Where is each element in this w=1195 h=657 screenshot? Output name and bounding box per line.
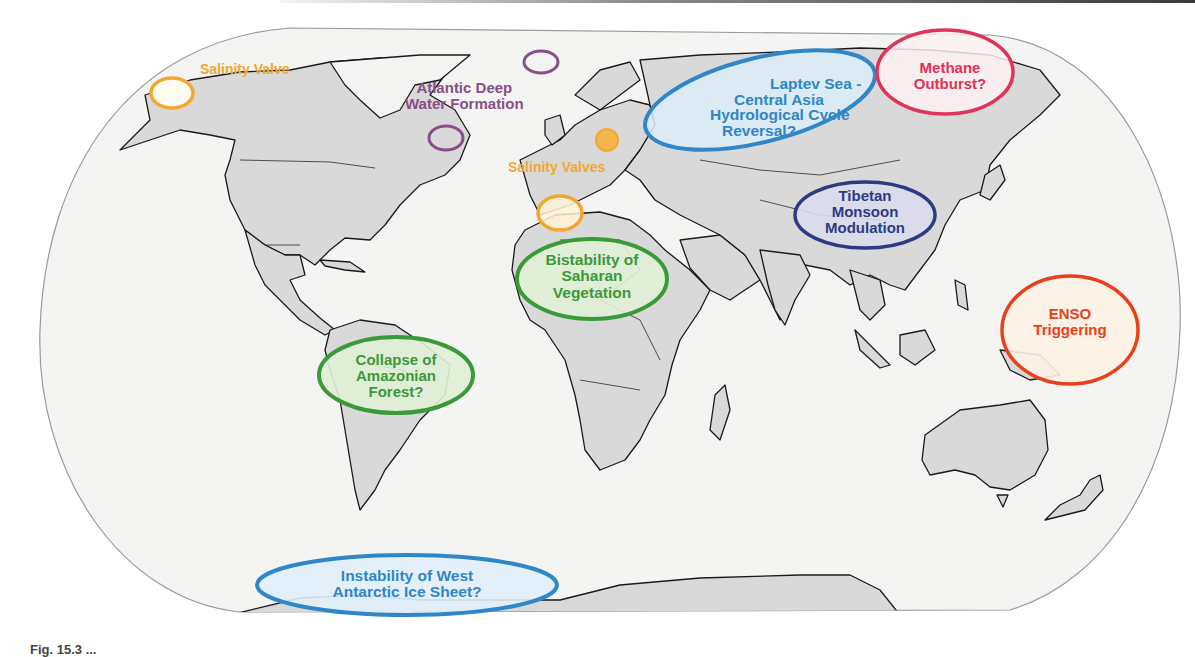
label-saharan-vegetation: Bistability of Saharan Vegetation <box>522 252 662 301</box>
label-salinity-valves-europe: Salinity Valves <box>508 160 605 175</box>
label-methane-outburst: Methane Outburst? <box>895 60 1005 92</box>
label-enso-triggering: ENSO Triggering <box>1015 306 1125 338</box>
label-salinity-valve-bering: Salinity Valve <box>200 62 290 77</box>
label-atlantic-deep-water: Atlantic Deep Water Formation <box>405 80 524 112</box>
label-laptev-central-asia: Laptev Sea - Central Asia Hydrological C… <box>670 76 861 138</box>
salinity-valve-baltic-marker <box>596 129 618 151</box>
label-tibetan-monsoon: Tibetan Monsoon Modulation <box>805 188 925 235</box>
label-amazonian-forest: Collapse of Amazonian Forest? <box>336 352 456 399</box>
figure-caption: Fig. 15.3 ... <box>30 642 96 657</box>
label-west-antarctic-ice: Instability of West Antarctic Ice Sheet? <box>297 568 517 601</box>
salinity-valve-bering-marker <box>151 78 193 108</box>
salinity-valve-gibraltar-marker <box>538 196 582 230</box>
